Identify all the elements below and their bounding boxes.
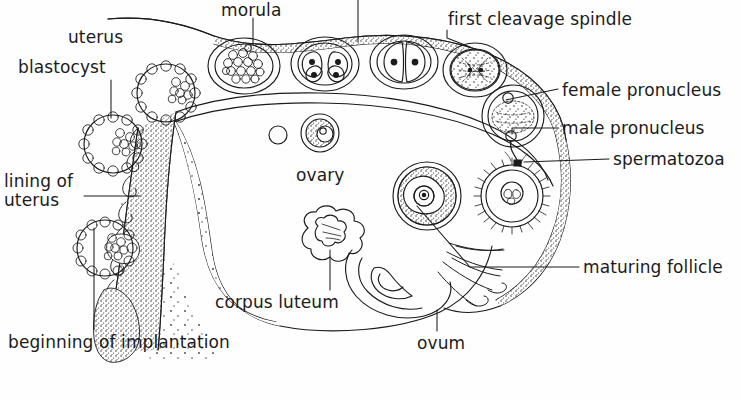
uterus-cavity-upper bbox=[108, 18, 566, 186]
label-lining-of-uterus: lining ofuterus bbox=[4, 172, 73, 210]
diagram-canvas: uterus blastocyst lining ofuterus beginn… bbox=[0, 0, 741, 400]
label-blastocyst: blastocyst bbox=[18, 58, 106, 77]
fimbriae bbox=[438, 243, 506, 306]
primordial-follicle bbox=[269, 126, 287, 144]
label-corpus-luteum: corpus luteum bbox=[215, 293, 339, 312]
label-female-pronucleus: female pronucleus bbox=[562, 81, 721, 100]
label-uterus: uterus bbox=[68, 28, 123, 47]
label-lining-line1: lining of bbox=[4, 171, 73, 191]
label-ovary: ovary bbox=[296, 166, 344, 185]
label-morula: morula bbox=[221, 1, 281, 20]
label-ovum: ovum bbox=[417, 334, 465, 353]
uterine-tube-infundibulum bbox=[346, 250, 451, 318]
early-ovum-cell bbox=[474, 158, 550, 234]
label-spermatozoa: spermatozoa bbox=[613, 150, 725, 169]
label-first-cleavage-spindle: first cleavage spindle bbox=[448, 10, 632, 29]
corpus-luteum bbox=[302, 206, 364, 261]
label-maturing-follicle: maturing follicle bbox=[583, 258, 723, 277]
label-lining-line2: uterus bbox=[4, 190, 59, 210]
ovary-body bbox=[120, 114, 506, 360]
maturing-follicle bbox=[393, 162, 461, 230]
label-beginning-of-implantation: beginning of implantation bbox=[8, 333, 230, 352]
leader-uterus bbox=[108, 18, 214, 36]
developing-follicle-small bbox=[301, 114, 339, 152]
label-male-pronucleus: male pronucleus bbox=[562, 119, 705, 138]
blastocyst-upper bbox=[132, 61, 200, 125]
